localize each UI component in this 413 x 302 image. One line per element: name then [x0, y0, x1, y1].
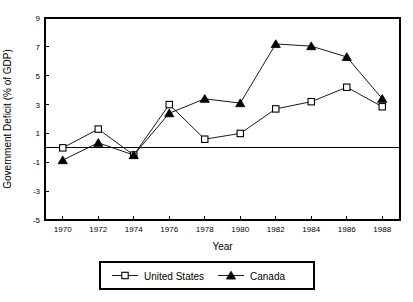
data-point-canada-1978: [200, 95, 209, 103]
line-chart: -5-3-11357919701972197419761978198019821…: [0, 0, 413, 302]
data-point-canada-1976: [165, 109, 174, 117]
x-axis-title: Year: [212, 241, 233, 252]
data-point-canada-1970: [58, 156, 67, 164]
plot-frame: [45, 18, 400, 220]
data-point-united-states-1984: [308, 98, 314, 104]
data-point-united-states-1982: [273, 106, 279, 112]
legend-marker-united-states: [122, 272, 128, 278]
y-axis-tick-label: -5: [33, 216, 41, 225]
data-point-canada-1986: [342, 53, 351, 61]
y-axis-tick-label: -3: [33, 187, 41, 196]
series-line-canada: [63, 44, 383, 160]
data-point-canada-1982: [271, 40, 280, 48]
series-line-united-states: [63, 87, 383, 155]
x-axis-tick-label: 1988: [373, 225, 391, 234]
x-axis-tick-label: 1986: [338, 225, 356, 234]
data-point-united-states-1986: [344, 84, 350, 90]
data-point-canada-1988: [378, 95, 387, 103]
data-point-united-states-1980: [237, 130, 243, 136]
data-point-canada-1972: [94, 139, 103, 147]
data-point-united-states-1988: [379, 104, 385, 110]
x-axis-tick-label: 1972: [89, 225, 107, 234]
x-axis-tick-label: 1970: [54, 225, 72, 234]
legend-label-canada: Canada: [250, 271, 285, 282]
x-axis-tick-label: 1974: [125, 225, 143, 234]
data-point-united-states-1970: [60, 145, 66, 151]
y-axis-tick-label: -1: [33, 158, 41, 167]
y-axis-tick-label: 7: [36, 43, 41, 52]
data-point-united-states-1976: [166, 101, 172, 107]
chart-figure: -5-3-11357919701972197419761978198019821…: [0, 0, 413, 302]
x-axis-tick-label: 1976: [160, 225, 178, 234]
legend-label-united-states: United States: [144, 271, 204, 282]
data-point-united-states-1972: [95, 126, 101, 132]
y-axis-tick-label: 5: [36, 72, 41, 81]
y-axis-tick-label: 9: [36, 14, 41, 23]
x-axis-tick-label: 1980: [231, 225, 249, 234]
y-axis-tick-label: 3: [36, 101, 41, 110]
data-point-united-states-1978: [202, 136, 208, 142]
x-axis-tick-label: 1978: [196, 225, 214, 234]
x-axis-tick-label: 1982: [267, 225, 285, 234]
x-axis-tick-label: 1984: [302, 225, 320, 234]
y-axis-title: Government Deficit (% of GDP): [2, 49, 13, 188]
y-axis-tick-label: 1: [36, 129, 41, 138]
